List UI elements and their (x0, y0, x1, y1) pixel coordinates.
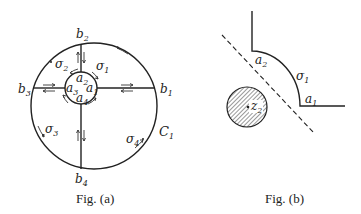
label-sigma4: σ4 (126, 132, 139, 148)
label-b2: b2 (76, 27, 89, 43)
label-sigma3: σ3 (45, 122, 58, 138)
label-b1: b1 (160, 82, 173, 98)
figure-canvas: b1 b2 b3 b4 a1 a2 a3 a4 σ1 σ2 σ3 σ4 C1 F… (0, 0, 361, 214)
label-a2-b: a2 (255, 53, 267, 69)
label-sigma1-b: σ1 (296, 69, 309, 85)
caption-fig-a: Fig. (a) (76, 191, 114, 206)
caption-fig-b: Fig. (b) (265, 191, 304, 206)
label-sigma2: σ2 (55, 57, 68, 73)
outer-circle-c1 (31, 43, 157, 169)
label-b3: b3 (18, 82, 31, 98)
label-a1-b: a1 (305, 92, 317, 108)
label-c1: C1 (159, 124, 174, 141)
figure-b: a2 a1 σ1 z2 Fig. (b) (222, 11, 345, 206)
point-z2 (247, 106, 250, 109)
boundary-curve (252, 11, 345, 106)
figure-a: b1 b2 b3 b4 a1 a2 a3 a4 σ1 σ2 σ3 σ4 C1 F… (18, 27, 174, 206)
label-b4: b4 (75, 172, 88, 188)
label-sigma1: σ1 (96, 59, 109, 75)
